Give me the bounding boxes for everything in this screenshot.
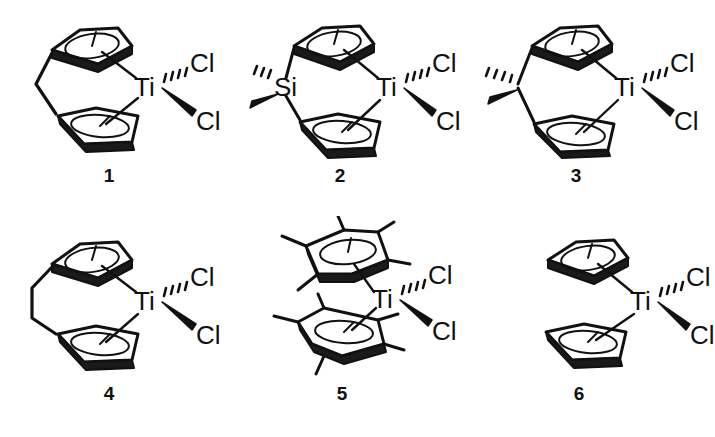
atom-label-cl-lower: Cl — [196, 106, 221, 136]
structure-4-drawing: Ti Cl Cl — [14, 222, 244, 382]
atom-label-cl-upper: Cl — [432, 48, 457, 78]
bond-ti-cl-wedge — [162, 302, 196, 330]
atom-label-cl-lower: Cl — [690, 320, 715, 350]
atom-label-ti: Ti — [614, 72, 635, 102]
atom-label-cl-upper: Cl — [686, 262, 711, 292]
compound-label-4: 4 — [89, 383, 129, 405]
atom-label-ti: Ti — [134, 72, 155, 102]
bond-ti-cl-hashed — [660, 282, 683, 296]
structure-4: Ti Cl Cl — [14, 222, 244, 382]
structure-6-drawing: Ti Cl Cl — [494, 222, 715, 382]
cp-star-ring-top — [306, 230, 388, 282]
structure-2-drawing: Si Ti Cl Cl — [238, 8, 468, 168]
bond-ti-cl-wedge — [400, 300, 432, 326]
structure-1: Ti Cl Cl — [14, 8, 244, 168]
atom-label-cl-upper: Cl — [670, 48, 695, 78]
structure-5: Ti Cl Cl — [252, 216, 482, 381]
structure-3-drawing: Ti Cl Cl — [472, 8, 707, 168]
bond-ti-cl-hashed — [402, 280, 425, 294]
cp-ring-bottom — [546, 324, 626, 368]
bridge-methyl-hashed — [486, 68, 512, 82]
chemical-structure-figure: Ti Cl Cl 1 — [0, 0, 715, 437]
bridge-trimethylene — [32, 267, 56, 334]
cp-star-ring-bottom — [298, 308, 386, 364]
cp-ring-bottom — [300, 114, 380, 158]
atom-label-cl-upper: Cl — [428, 260, 453, 290]
structure-6: Ti Cl Cl — [494, 222, 715, 382]
atom-label-cl-lower: Cl — [196, 320, 221, 350]
cp-ring-bottom — [58, 326, 138, 370]
atom-label-cl-lower: Cl — [674, 106, 699, 136]
atom-label-cl-lower: Cl — [436, 106, 461, 136]
atom-label-ti: Ti — [134, 286, 155, 316]
compound-label-1: 1 — [89, 165, 129, 187]
atom-label-cl-upper: Cl — [190, 48, 215, 78]
atom-label-ti: Ti — [372, 284, 393, 314]
bond-ti-cl-hashed — [164, 68, 187, 82]
structure-1-drawing: Ti Cl Cl — [14, 8, 244, 168]
atom-label-si: Si — [274, 72, 297, 102]
bond-ti-cl-hashed — [644, 68, 667, 82]
cp-ring-bottom — [534, 116, 614, 158]
si-methyl-hashed — [254, 66, 271, 78]
bond-ti-cl-hashed — [406, 68, 429, 82]
bridge-ethylene — [36, 53, 56, 114]
structure-5-drawing: Ti Cl Cl — [252, 216, 482, 381]
atom-label-ti: Ti — [630, 286, 651, 316]
bond-ti-cl-wedge — [642, 88, 674, 116]
bond-ti-cl-hashed — [164, 282, 187, 296]
atom-label-ti: Ti — [376, 72, 397, 102]
bond-ti-cl-wedge — [658, 302, 690, 330]
compound-label-6: 6 — [559, 383, 599, 405]
bridge-isopropylidene — [518, 48, 534, 122]
bond-ti-cl-wedge — [404, 88, 436, 116]
compound-label-2: 2 — [320, 165, 360, 187]
atom-label-cl-upper: Cl — [190, 262, 215, 292]
atom-label-cl-lower: Cl — [432, 316, 457, 346]
bond-ti-cl-wedge — [162, 88, 196, 116]
compound-label-5: 5 — [322, 383, 362, 405]
bridge-methyl-wedge — [488, 90, 517, 104]
structure-2: Si Ti Cl Cl — [238, 8, 468, 168]
structure-3: Ti Cl Cl — [472, 8, 707, 168]
cp-ring-bottom — [58, 108, 138, 152]
compound-label-3: 3 — [556, 165, 596, 187]
